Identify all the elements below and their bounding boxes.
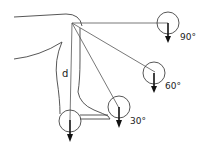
arrow-down-icon (116, 120, 122, 128)
angle-label-90: 90° (180, 32, 196, 42)
distance-label: d (62, 68, 68, 79)
weight-30-degree: 30° (108, 96, 146, 128)
angle-label-60: 60° (165, 81, 181, 91)
arrow-down-icon (151, 86, 157, 93)
weight-60-degree: 60° (143, 62, 181, 93)
leg-angle-diagram: 90° 60° 30° d (0, 0, 203, 150)
arrow-down-icon (67, 134, 73, 142)
angle-lines (70, 23, 168, 120)
weight-90-degree: 90° (157, 12, 196, 43)
angle-label-30: 30° (130, 116, 146, 126)
arrow-down-icon (165, 36, 171, 43)
